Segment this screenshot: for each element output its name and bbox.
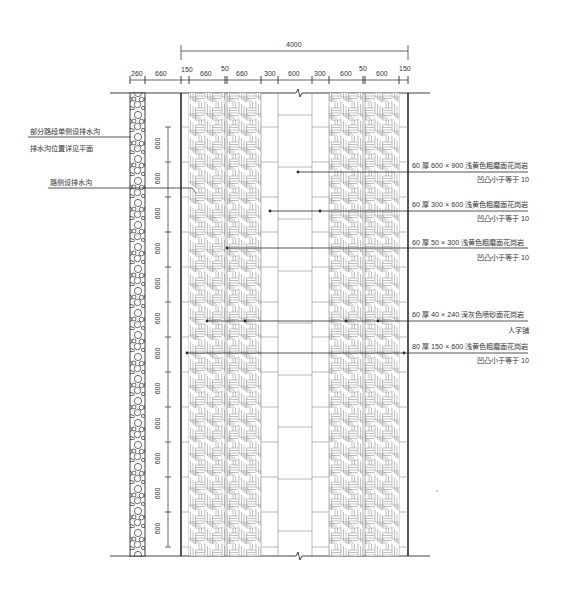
dimension-260: 260 bbox=[131, 70, 143, 77]
herringbone-band-3 bbox=[329, 93, 363, 556]
dimension-300: 300 bbox=[264, 70, 276, 77]
herringbone-band-4 bbox=[365, 93, 399, 556]
note-granite-150x600-tolerance: 凹凸小于等于 10 bbox=[477, 357, 529, 364]
vertical-dimension: 600 bbox=[154, 488, 161, 500]
note-drain-partial: 部分路段单侧设排水沟 bbox=[30, 128, 100, 135]
note-roadside-drain: 路侧设排水沟 bbox=[50, 179, 92, 186]
dimension-150: 150 bbox=[181, 66, 193, 73]
vertical-dimension: 600 bbox=[154, 418, 161, 430]
dimension-total: 4000 bbox=[286, 41, 302, 48]
dimension-660: 660 bbox=[155, 70, 167, 77]
note-granite-40x240: 60 厚 40 × 240 深灰色喷砂面花岗岩 bbox=[412, 311, 524, 318]
vertical-dimension: 600 bbox=[154, 243, 161, 255]
vertical-dimension: 600 bbox=[154, 173, 161, 185]
note-granite-300x600-tolerance: 凹凸小于等于 10 bbox=[477, 215, 529, 222]
dimension-660: 660 bbox=[236, 70, 248, 77]
herringbone-band-1 bbox=[189, 93, 225, 556]
dimension-600: 600 bbox=[376, 70, 388, 77]
vertical-dimension: 600 bbox=[154, 348, 161, 360]
note-granite-600x900-tolerance: 凹凸小于等于 10 bbox=[477, 176, 529, 183]
dimension-300: 300 bbox=[314, 70, 326, 77]
left-vertical-dimension bbox=[165, 127, 171, 547]
vertical-dimension: 600 bbox=[154, 313, 161, 325]
note-granite-300x600: 60 厚 300 × 600 浅黄色粗磨面花岗岩 bbox=[412, 201, 528, 208]
note-granite-150x600: 80 厚 150 × 600 浅黄色粗磨面花岗岩 bbox=[412, 343, 528, 350]
vertical-dimension: 600 bbox=[154, 383, 161, 395]
dimension-600: 600 bbox=[340, 70, 352, 77]
dimension-660: 660 bbox=[200, 70, 212, 77]
dimension-50: 50 bbox=[359, 65, 367, 72]
dimension-50: 50 bbox=[221, 65, 229, 72]
paving-plan-drawing bbox=[0, 0, 562, 591]
herringbone-band-2 bbox=[227, 93, 261, 556]
note-granite-50x300: 60 厚 50 × 300 浅黄色粗磨面花岗岩 bbox=[412, 239, 524, 246]
note-granite-50x300-tolerance: 凹凸小于等于 10 bbox=[477, 254, 529, 261]
vertical-dimension: 600 bbox=[154, 208, 161, 220]
dimension-150: 150 bbox=[399, 65, 411, 72]
note-herringbone-laying: 人字铺 bbox=[508, 327, 529, 334]
drain-gravel bbox=[130, 93, 145, 556]
vertical-dimension: 600 bbox=[154, 278, 161, 290]
note-drain-location: 排水沟位置详见平面 bbox=[30, 145, 93, 152]
vertical-dimension: 600 bbox=[154, 453, 161, 465]
vertical-dimension: 600 bbox=[154, 138, 161, 150]
note-granite-600x900: 60 厚 600 × 900 浅黄色粗磨面花岗岩 bbox=[412, 162, 528, 169]
vertical-dimension: 600 bbox=[154, 523, 161, 535]
dimension-600: 600 bbox=[288, 70, 300, 77]
